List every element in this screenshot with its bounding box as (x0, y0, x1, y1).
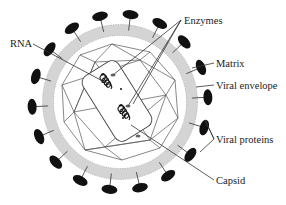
viral-protein-spike (151, 16, 169, 31)
label-capsid: Capsid (216, 175, 246, 186)
label-viral-envelope: Viral envelope (216, 80, 278, 91)
capsid-edge (150, 80, 178, 148)
viral-protein-spike (29, 67, 42, 85)
viral-protein-spike (159, 168, 177, 184)
label-rna: RNA (10, 38, 33, 49)
capsid-edge (80, 44, 150, 62)
viral-protein-spike (182, 146, 199, 164)
capsid-edge (140, 60, 175, 80)
viral-protein-spike (122, 9, 139, 20)
enzyme (136, 134, 141, 137)
capsid-edge (85, 140, 150, 150)
label-matrix: Matrix (216, 58, 245, 69)
viral-protein-spike (32, 127, 47, 145)
label-viral-proteins: Viral proteins (216, 134, 273, 145)
rna-dot (122, 117, 124, 119)
viral-protein-spike (91, 10, 109, 22)
viral-protein-spike (63, 20, 81, 36)
viral-protein-spike (101, 184, 118, 195)
viral-protein-spike (27, 99, 37, 115)
viral-protein-spike (71, 173, 89, 188)
viral-protein-spike (203, 89, 213, 105)
label-enzymes: Enzymes (184, 15, 223, 26)
rna-dot (120, 88, 122, 90)
virus-diagram: RNA Enzymes Matrix Viral envelope Viral … (0, 0, 286, 205)
viral-protein-spike (131, 182, 149, 194)
viral-envelope-leader (196, 85, 214, 87)
